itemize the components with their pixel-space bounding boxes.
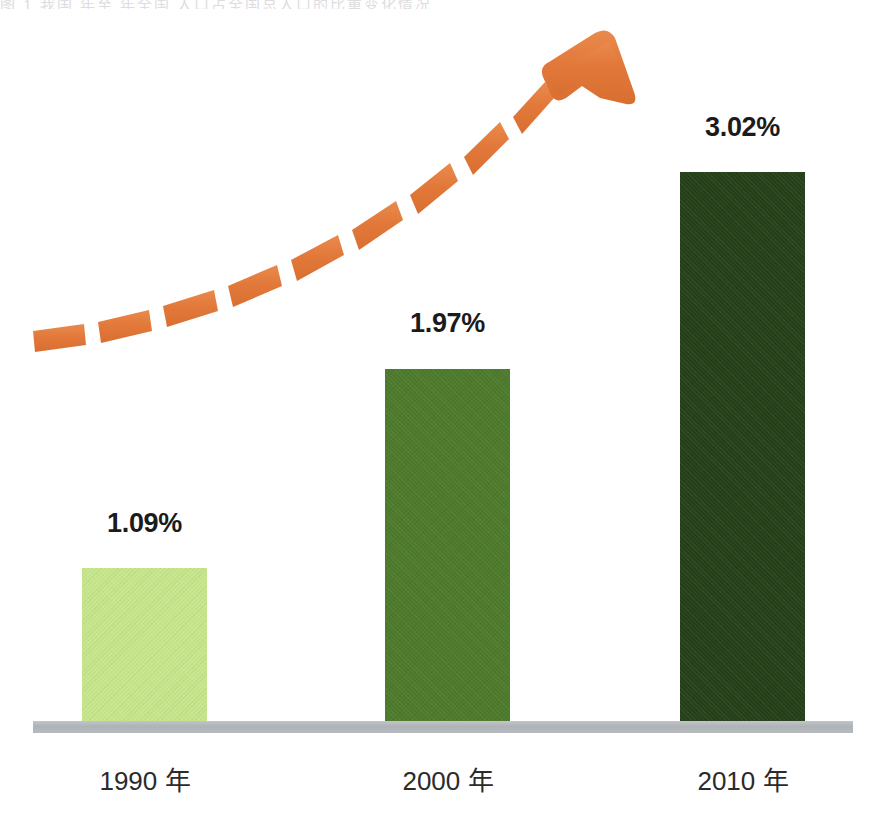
category-label-2000: 2000 年 [358,760,538,797]
bar-1990 [82,568,207,722]
plot-area: 1.09% 1990 年 1.97% 2000 年 3.02% 2010 年 [0,0,882,826]
axis-baseline [33,721,853,733]
category-label-2010: 2010 年 [653,760,833,797]
value-label-2000: 1.97% [385,308,510,339]
bar-2010 [680,172,805,722]
value-label-1990: 1.09% [82,508,207,539]
bar-2000 [385,369,510,722]
category-label-1990: 1990 年 [55,760,235,797]
value-label-2010: 3.02% [680,112,805,143]
bar-chart-figure: 图 1 我国 年至 年全国 人口占全国总人口的比重变化情况 [0,0,882,826]
